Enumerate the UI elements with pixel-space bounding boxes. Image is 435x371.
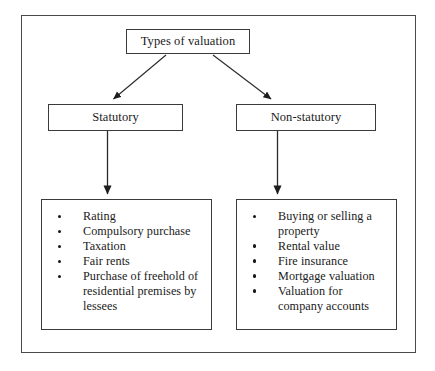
statutory-items-list: Rating Compulsory purchase Taxation Fair… [42, 200, 211, 313]
list-item: Valuation for company accounts [245, 284, 390, 313]
list-item: Rating [50, 209, 205, 224]
root-node-types-of-valuation: Types of valuation [126, 29, 250, 54]
node-non-statutory: Non-statutory [236, 104, 376, 131]
valuation-types-diagram: Types of valuation Statutory Non-statuto… [0, 0, 435, 371]
non-statutory-items-box: Buying or selling a property Rental valu… [236, 199, 397, 330]
list-item: Rental value [245, 239, 390, 254]
list-item: Mortgage valuation [245, 269, 390, 284]
list-item: Buying or selling a property [245, 209, 390, 238]
non-statutory-items-list: Buying or selling a property Rental valu… [237, 200, 396, 313]
root-node-label: Types of valuation [141, 35, 236, 49]
node-statutory: Statutory [48, 104, 183, 131]
list-item: Purchase of freehold of residential prem… [50, 269, 205, 313]
statutory-items-box: Rating Compulsory purchase Taxation Fair… [41, 199, 212, 330]
list-item: Fire insurance [245, 254, 390, 269]
list-item: Compulsory purchase [50, 224, 205, 239]
list-item: Fair rents [50, 254, 205, 269]
list-item: Taxation [50, 239, 205, 254]
node-statutory-label: Statutory [92, 111, 139, 125]
node-non-statutory-label: Non-statutory [271, 111, 342, 125]
